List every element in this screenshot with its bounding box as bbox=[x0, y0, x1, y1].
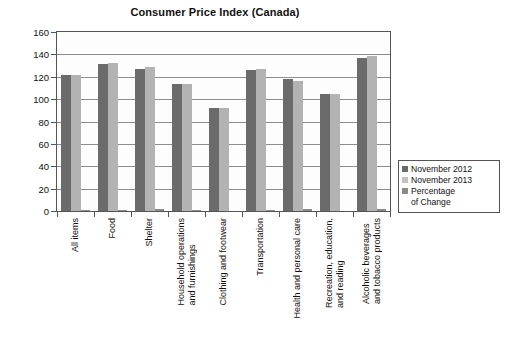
x-tick-mark bbox=[57, 212, 58, 217]
y-tick-label: 120 bbox=[33, 71, 49, 82]
bar bbox=[145, 67, 155, 211]
x-tick-mark bbox=[242, 212, 243, 217]
bar bbox=[98, 64, 108, 211]
bar bbox=[367, 56, 377, 211]
bar bbox=[135, 69, 145, 211]
x-tick-mark bbox=[316, 212, 317, 217]
x-axis-label: Household operations and furnishings bbox=[168, 218, 205, 357]
x-tick-mark bbox=[353, 212, 354, 217]
x-axis-label-text: Alcoholic beverages and tobacco products bbox=[361, 218, 382, 304]
x-axis-label-text: Food bbox=[107, 218, 118, 239]
bar bbox=[81, 210, 90, 211]
legend-item[interactable]: November 2012 bbox=[402, 164, 496, 175]
bar bbox=[108, 63, 118, 211]
y-axis: 020406080100120140160 bbox=[0, 31, 56, 212]
x-axis-label-text: Health and personal care bbox=[292, 218, 303, 319]
x-axis-label-text: Household operations and furnishings bbox=[176, 218, 197, 306]
bar bbox=[182, 84, 192, 211]
bar bbox=[71, 75, 81, 211]
bar-group bbox=[316, 32, 353, 211]
x-axis-label: Transportation bbox=[242, 218, 279, 357]
x-axis-label-text: Clothing and footwear bbox=[218, 218, 229, 306]
bar-group bbox=[94, 32, 131, 211]
bar bbox=[320, 94, 330, 211]
x-axis-label: Alcoholic beverages and tobacco products bbox=[353, 218, 390, 357]
x-axis-label-text: Recreation, education, and reading bbox=[324, 218, 345, 308]
bar bbox=[256, 69, 266, 211]
x-tick-mark bbox=[390, 212, 391, 217]
bar bbox=[192, 210, 201, 211]
bar-group bbox=[205, 32, 242, 211]
x-tick-mark bbox=[168, 212, 169, 217]
x-tick-mark bbox=[94, 212, 95, 217]
x-axis-label: Recreation, education, and reading bbox=[316, 218, 353, 357]
x-axis-label: Health and personal care bbox=[279, 218, 316, 357]
legend-swatch-icon bbox=[402, 177, 408, 183]
bar-group bbox=[168, 32, 205, 211]
x-axis-label: Shelter bbox=[131, 218, 168, 357]
chart-title: Consumer Price Index (Canada) bbox=[0, 6, 430, 18]
y-tick-label: 100 bbox=[33, 94, 49, 105]
bar bbox=[209, 108, 219, 211]
y-tick-label: 40 bbox=[38, 161, 49, 172]
x-axis-ticks bbox=[57, 212, 390, 217]
x-axis-label: Clothing and footwear bbox=[205, 218, 242, 357]
x-tick-mark bbox=[205, 212, 206, 217]
x-tick-mark bbox=[279, 212, 280, 217]
legend-label: Percentage of Change bbox=[411, 186, 455, 207]
bar bbox=[377, 209, 386, 211]
bar bbox=[357, 58, 367, 211]
bar bbox=[303, 209, 312, 211]
x-axis-label-text: Transportation bbox=[255, 218, 266, 276]
x-axis-label: All items bbox=[57, 218, 94, 357]
bar bbox=[118, 210, 127, 211]
bar-group bbox=[242, 32, 279, 211]
bar-group bbox=[279, 32, 316, 211]
bar bbox=[293, 81, 303, 211]
bar-group bbox=[353, 32, 390, 211]
legend-label: November 2013 bbox=[411, 175, 472, 186]
y-tick-label: 140 bbox=[33, 49, 49, 60]
bar bbox=[61, 75, 71, 211]
y-tick-label: 0 bbox=[44, 206, 49, 217]
legend-item[interactable]: Percentage of Change bbox=[402, 186, 496, 207]
x-axis-label-text: Shelter bbox=[144, 218, 155, 247]
bar-group bbox=[131, 32, 168, 211]
y-tick-label: 160 bbox=[33, 27, 49, 38]
x-axis-label: Food bbox=[94, 218, 131, 357]
y-tick-label: 60 bbox=[38, 138, 49, 149]
y-tick-label: 20 bbox=[38, 183, 49, 194]
bar-group bbox=[57, 32, 94, 211]
bar bbox=[155, 209, 164, 211]
y-tick-label: 80 bbox=[38, 116, 49, 127]
chart-legend: November 2012November 2013Percentage of … bbox=[398, 160, 500, 213]
bar bbox=[219, 108, 229, 211]
x-tick-mark bbox=[131, 212, 132, 217]
bar bbox=[246, 70, 256, 211]
bar-series-container bbox=[57, 32, 390, 211]
legend-swatch-icon bbox=[402, 188, 408, 194]
bar bbox=[330, 94, 340, 211]
legend-label: November 2012 bbox=[411, 164, 472, 175]
legend-item[interactable]: November 2013 bbox=[402, 175, 496, 186]
legend-swatch-icon bbox=[402, 166, 408, 172]
bar bbox=[172, 84, 182, 211]
bar bbox=[266, 210, 275, 211]
bar bbox=[283, 79, 293, 211]
x-axis-labels: All itemsFoodShelterHousehold operations… bbox=[57, 218, 390, 357]
x-axis-label-text: All items bbox=[70, 218, 81, 252]
